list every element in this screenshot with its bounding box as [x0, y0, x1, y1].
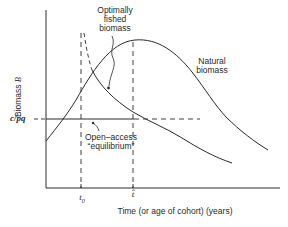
open-access-pointer-dot	[92, 122, 94, 124]
biomass-diagram	[0, 0, 288, 227]
natural-biomass-label: Natural biomass	[187, 57, 237, 75]
cpq-tick-label: c/pq	[10, 114, 26, 123]
x-axis-label: Time (or age of cohort) (years)	[105, 207, 245, 216]
optimally-fished-pointer	[109, 36, 114, 86]
optimally-fished-label: Optimally fished biomass	[85, 6, 145, 33]
open-access-pointer	[93, 123, 99, 131]
optimally-fished-pointer-dot	[107, 87, 110, 90]
t-hat-tick-label: t̂	[127, 190, 139, 199]
open-access-label: Open–access “equilibrium”	[80, 133, 142, 151]
optimally-fished-curve-dashed	[84, 33, 92, 70]
t0-tick-label: t0	[75, 193, 89, 206]
